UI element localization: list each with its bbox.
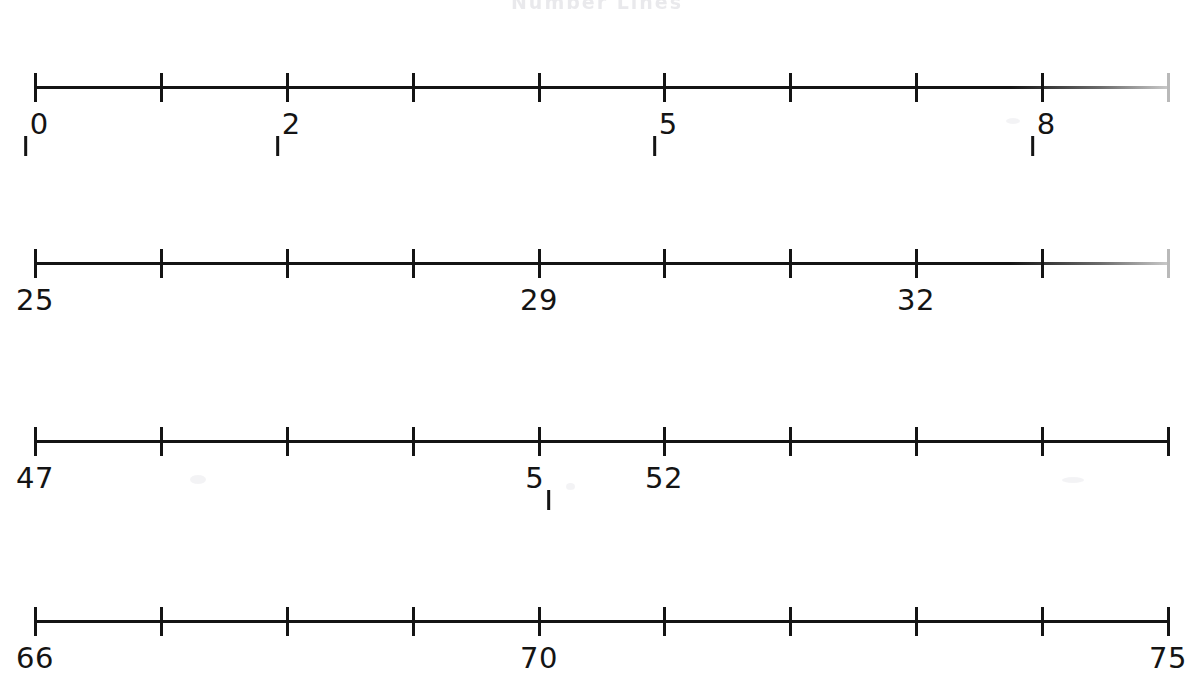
tick-mark[interactable] [286,73,289,102]
tick-label: 70 [520,641,558,675]
axis-line [35,440,1168,443]
tick-mark[interactable] [412,73,415,102]
number-line-row-2: 252932 [0,231,1194,351]
tick-mark[interactable] [663,249,666,278]
tick-mark[interactable] [915,249,918,278]
tick-mark[interactable] [789,427,792,456]
tick-label: 52 [645,461,683,495]
tick-mark[interactable] [538,427,541,456]
tick-mark[interactable] [34,249,37,278]
tick-mark[interactable] [663,73,666,102]
tick-mark[interactable] [915,427,918,456]
tick-mark[interactable] [286,607,289,636]
tick-mark[interactable] [1167,249,1170,278]
tick-label: 5 [650,107,678,141]
tick-label: 47 [16,461,54,495]
tick-mark[interactable] [160,73,163,102]
tick-mark[interactable] [412,249,415,278]
tick-mark[interactable] [286,427,289,456]
tick-mark[interactable] [412,427,415,456]
tick-label: 32 [897,283,935,317]
tick-label: 8 [1028,107,1056,141]
tick-mark[interactable] [1167,427,1170,456]
axis-line [35,262,1168,265]
tick-mark[interactable] [663,607,666,636]
tick-mark[interactable] [34,427,37,456]
tick-label: 29 [520,283,558,317]
tick-mark[interactable] [538,249,541,278]
tick-mark[interactable] [160,249,163,278]
tick-mark[interactable] [1167,73,1170,102]
number-line-row-1: 0258 [0,55,1194,175]
tick-label: 75 [1149,641,1187,675]
tick-label: 25 [16,283,54,317]
tick-mark[interactable] [789,607,792,636]
tick-mark[interactable] [915,73,918,102]
tick-mark[interactable] [538,607,541,636]
axis-line [35,86,1168,89]
tick-mark[interactable] [1041,607,1044,636]
tick-mark[interactable] [789,73,792,102]
axis-line [35,620,1168,623]
number-line-row-3: 47552 [0,409,1194,529]
tick-label: 66 [16,641,54,675]
tick-mark[interactable] [160,607,163,636]
cut-off-worksheet-title: Number Lines [0,0,1194,13]
tick-mark[interactable] [160,427,163,456]
tick-label: 2 [273,107,301,141]
tick-mark[interactable] [1041,73,1044,102]
tick-label: 0 [21,107,49,141]
tick-mark[interactable] [34,73,37,102]
tick-mark[interactable] [1041,427,1044,456]
tick-mark[interactable] [538,73,541,102]
number-line-row-4: 667075 [0,589,1194,699]
tick-mark[interactable] [1041,249,1044,278]
tick-mark[interactable] [286,249,289,278]
tick-mark[interactable] [915,607,918,636]
tick-mark[interactable] [34,607,37,636]
tick-mark[interactable] [789,249,792,278]
tick-mark[interactable] [1167,607,1170,636]
tick-mark[interactable] [663,427,666,456]
tick-label: 5 [525,461,553,495]
tick-mark[interactable] [412,607,415,636]
